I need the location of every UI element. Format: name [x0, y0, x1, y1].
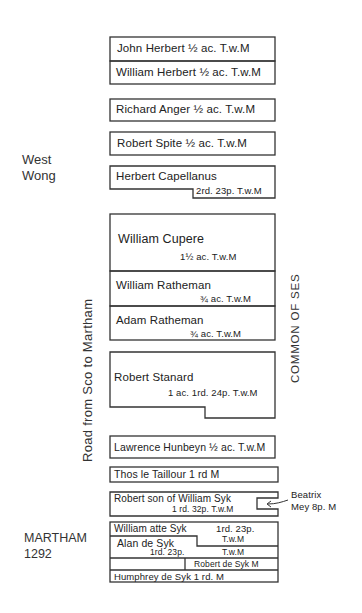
label-robert-de-syk: Robert de Syk M: [194, 560, 259, 569]
label-west-wong: West Wong: [22, 152, 56, 184]
label-martham: MARTHAM: [24, 530, 87, 546]
label-west: West: [22, 152, 56, 168]
label-martham-1292: MARTHAM 1292: [24, 530, 87, 562]
label-herbert-capellanus: Herbert Capellanus: [116, 171, 217, 183]
label-william-cupere: William Cupere: [118, 233, 204, 246]
plot-robert-stanard: [110, 352, 275, 418]
label-richard-anger: Richard Anger ½ ac. T.w.M: [116, 104, 255, 116]
value-william-ratheman: ¾ ac. T.w.M: [200, 294, 251, 304]
label-john-herbert: John Herbert ½ ac. T.w.M: [117, 43, 250, 55]
label-lawrence-hunbeyn: Lawrence Hunbeyn ½ ac. T.w.M: [114, 442, 265, 453]
label-william-ratheman: William Ratheman: [116, 280, 211, 292]
beatrix-pointer-arrow: [268, 500, 288, 504]
label-road-from-sco-to-martham: Road from Sco to Martham: [80, 299, 95, 462]
label-robert-son-of-william-syk: Robert son of William Syk: [114, 494, 231, 504]
label-beatrix-mey-2: Mey 8p. M: [291, 502, 336, 512]
value-robert-stanard: 1 ac. 1rd. 24p. T.w.M: [168, 388, 258, 398]
area-alan-de-syk: 1rd. 23p.: [150, 548, 184, 557]
area-william-atte-syk: 1rd. 23p.: [216, 524, 254, 534]
value-adam-ratheman: ¾ ac. T.w.M: [190, 329, 241, 339]
label-common-of-ses: COMMON OF SES: [289, 274, 301, 383]
label-robert-spite: Robert Spite ½ ac. T.w.M: [117, 138, 247, 150]
label-adam-ratheman: Adam Ratheman: [116, 315, 204, 327]
tenure-william-atte-syk: T.w.M: [222, 535, 244, 544]
label-beatrix-mey-1: Beatrix: [291, 490, 321, 500]
label-year: 1292: [24, 546, 87, 562]
label-william-herbert: William Herbert ½ ac. T.w.M: [116, 67, 261, 79]
plot-boundaries: [0, 0, 362, 613]
label-thos-le-taillour: Thos le Taillour 1 rd M: [114, 469, 219, 480]
value-william-cupere: 1½ ac. T.w.M: [180, 252, 236, 262]
value-robert-son-of-william-syk: 1 rd. 32p. T.w.M: [172, 505, 233, 514]
tenure-alan-de-syk: T.w.M: [222, 548, 244, 557]
label-humphrey-de-syk: Humphrey de Syk 1 rd. M: [114, 572, 224, 582]
label-william-atte-syk: William atte Syk: [114, 524, 187, 534]
label-wong: Wong: [22, 168, 56, 184]
label-robert-stanard: Robert Stanard: [114, 372, 193, 384]
value-herbert-capellanus: 2rd. 23p. T.w.M: [196, 186, 262, 196]
